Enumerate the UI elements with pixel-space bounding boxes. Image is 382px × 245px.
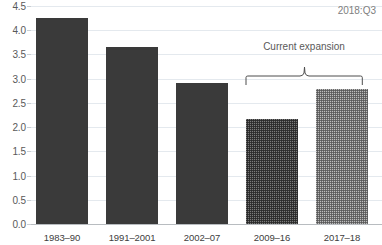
current-expansion-label: Current expansion [245, 41, 363, 53]
xtick-label-1991-2001: 1991–2001 [104, 232, 160, 244]
xtick-label-2009-16: 2009–16 [246, 232, 298, 244]
date-stamp-annotation: 2018:Q3 [338, 5, 376, 17]
ytick-mark-2.0 [27, 127, 31, 128]
bar-chart: 4.5 4.0 3.5 3.0 2.5 2.0 1.5 1.0 0.5 0.0 … [0, 0, 382, 245]
ytick-mark-1.0 [27, 176, 31, 177]
ytick-mark-0.5 [27, 200, 31, 201]
bar-2009-16 [246, 119, 298, 224]
ytick-label-0.0: 0.0 [0, 219, 26, 230]
ytick-label-2.0: 2.0 [0, 122, 26, 133]
xtick-label-2017-18: 2017–18 [316, 232, 368, 244]
bar-1983-90 [36, 18, 88, 224]
bar-2002-07 [176, 83, 228, 224]
ytick-mark-1.5 [27, 151, 31, 152]
ytick-mark-4.5 [27, 6, 31, 7]
bar-1991-2001 [106, 47, 158, 224]
xtick-label-1983-90: 1983–90 [36, 232, 88, 244]
current-expansion-bracket-icon [240, 58, 368, 90]
ytick-label-2.5: 2.5 [0, 98, 26, 109]
ytick-label-4.0: 4.0 [0, 25, 26, 36]
ytick-mark-0.0 [27, 224, 31, 225]
ytick-label-3.5: 3.5 [0, 49, 26, 60]
ytick-label-1.5: 1.5 [0, 146, 26, 157]
ytick-mark-4.0 [27, 30, 31, 31]
ytick-label-0.5: 0.5 [0, 195, 26, 206]
ytick-mark-2.5 [27, 103, 31, 104]
axis-baseline [31, 224, 382, 225]
ytick-mark-3.0 [27, 79, 31, 80]
ytick-label-4.5: 4.5 [0, 1, 26, 12]
xtick-label-2002-07: 2002–07 [176, 232, 228, 244]
ytick-mark-3.5 [27, 54, 31, 55]
ytick-label-3.0: 3.0 [0, 74, 26, 85]
bar-2017-18 [316, 89, 368, 224]
ytick-label-1.0: 1.0 [0, 171, 26, 182]
gridline-4.5 [31, 6, 382, 7]
